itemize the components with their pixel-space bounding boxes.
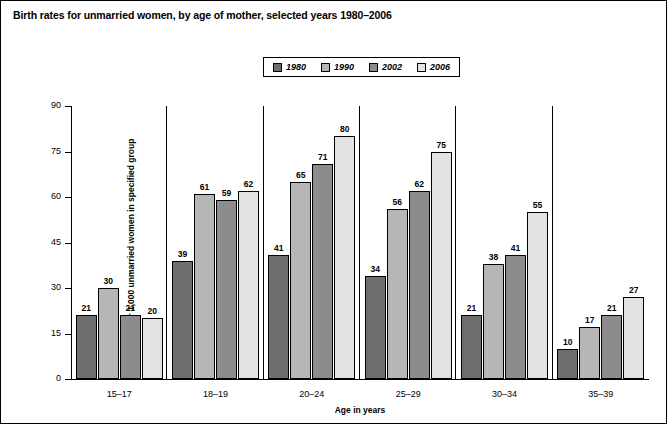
legend-swatch-icon: [321, 63, 330, 72]
bar-slot: 17: [579, 106, 600, 379]
chart-figure: Birth rates for unmarried women, by age …: [0, 0, 667, 424]
x-axis-tick-label: 35–39: [553, 389, 649, 399]
bar[interactable]: [194, 194, 215, 379]
bar-group-bars: 21384155: [456, 106, 552, 379]
y-axis-tick-label: 75: [51, 146, 61, 156]
bar-group-bars: 21302120: [71, 106, 167, 379]
bar-value-label: 56: [392, 197, 401, 207]
y-axis-tick-label: 90: [51, 100, 61, 110]
bar-value-label: 17: [585, 315, 594, 325]
bar-slot: 75: [431, 106, 452, 379]
bar[interactable]: [505, 255, 526, 379]
bar-slot: 20: [142, 106, 163, 379]
bar[interactable]: [623, 297, 644, 379]
chart-title: Birth rates for unmarried women, by age …: [13, 9, 392, 21]
bar[interactable]: [387, 209, 408, 379]
bar-slot: 10: [557, 106, 578, 379]
x-axis-line: [71, 379, 649, 380]
bar[interactable]: [268, 255, 289, 379]
bar-group-bars: 41657180: [264, 106, 360, 379]
bar-group: 2130212015–17: [71, 106, 167, 379]
bar[interactable]: [579, 327, 600, 379]
bar-value-label: 65: [296, 170, 305, 180]
legend-swatch-icon: [417, 63, 426, 72]
bar-value-label: 21: [467, 303, 476, 313]
bar-value-label: 55: [533, 200, 542, 210]
legend-item[interactable]: 1980: [273, 62, 306, 72]
bar-value-label: 62: [414, 179, 423, 189]
bar-group: 3961596218–19: [167, 106, 263, 379]
bar-group: 4165718020–24: [264, 106, 360, 379]
y-axis-tick-mark: [65, 379, 71, 380]
bar-groups: 2130212015–173961596218–194165718020–243…: [71, 106, 649, 379]
bar[interactable]: [431, 152, 452, 380]
bar[interactable]: [409, 191, 430, 379]
bar-slot: 61: [194, 106, 215, 379]
bar-slot: 62: [238, 106, 259, 379]
legend-swatch-icon: [273, 63, 282, 72]
bar[interactable]: [290, 182, 311, 379]
bar[interactable]: [461, 315, 482, 379]
bar-slot: 80: [334, 106, 355, 379]
bar-value-label: 21: [607, 303, 616, 313]
x-axis-tick-label: 25–29: [360, 389, 456, 399]
bar-slot: 71: [312, 106, 333, 379]
x-axis-title: Age in years: [71, 405, 649, 415]
bar-slot: 41: [505, 106, 526, 379]
legend-item[interactable]: 2006: [417, 62, 450, 72]
bar-value-label: 41: [274, 243, 283, 253]
bar-slot: 62: [409, 106, 430, 379]
bar-value-label: 61: [200, 182, 209, 192]
legend-item[interactable]: 2002: [369, 62, 402, 72]
bar-slot: 59: [216, 106, 237, 379]
bar-value-label: 62: [244, 179, 253, 189]
bar-slot: 34: [365, 106, 386, 379]
bar[interactable]: [238, 191, 259, 379]
bar-value-label: 34: [370, 264, 379, 274]
bar-slot: 21: [120, 106, 141, 379]
x-axis-tick-label: 30–34: [456, 389, 552, 399]
bar[interactable]: [312, 164, 333, 379]
y-axis-tick-label: 45: [51, 237, 61, 247]
bar[interactable]: [142, 318, 163, 379]
plot-area: Rate per 1,000 unmarried women in specif…: [71, 106, 649, 379]
bar[interactable]: [365, 276, 386, 379]
bar-value-label: 27: [629, 285, 638, 295]
bar[interactable]: [527, 212, 548, 379]
bar-slot: 55: [527, 106, 548, 379]
bar[interactable]: [557, 349, 578, 379]
bar-value-label: 10: [563, 337, 572, 347]
y-axis-tick-label: 0: [56, 373, 61, 383]
x-axis-tick-label: 15–17: [71, 389, 167, 399]
chart-legend: 1980199020022006: [263, 57, 460, 77]
bar-value-label: 75: [436, 140, 445, 150]
y-axis-tick-label: 60: [51, 191, 61, 201]
bar-value-label: 41: [511, 243, 520, 253]
x-axis-tick-label: 18–19: [167, 389, 263, 399]
bar-value-label: 30: [103, 276, 112, 286]
bar-value-label: 20: [147, 306, 156, 316]
bar-value-label: 38: [489, 252, 498, 262]
bar-value-label: 59: [222, 188, 231, 198]
legend-item[interactable]: 1990: [321, 62, 354, 72]
bar[interactable]: [172, 261, 193, 379]
x-axis-tick-label: 20–24: [264, 389, 360, 399]
bar[interactable]: [334, 136, 355, 379]
bar[interactable]: [483, 264, 504, 379]
legend-label: 2002: [382, 62, 402, 72]
legend-swatch-icon: [369, 63, 378, 72]
bar-group-bars: 34566275: [360, 106, 456, 379]
bar[interactable]: [76, 315, 97, 379]
bar-group: 3456627525–29: [360, 106, 456, 379]
bar-slot: 21: [461, 106, 482, 379]
bar-value-label: 39: [178, 249, 187, 259]
bar-slot: 41: [268, 106, 289, 379]
bar-group: 2138415530–34: [456, 106, 552, 379]
bar[interactable]: [216, 200, 237, 379]
bar[interactable]: [98, 288, 119, 379]
bar-value-label: 71: [318, 152, 327, 162]
bar-slot: 39: [172, 106, 193, 379]
bar[interactable]: [601, 315, 622, 379]
bar[interactable]: [120, 315, 141, 379]
legend-label: 1990: [334, 62, 354, 72]
